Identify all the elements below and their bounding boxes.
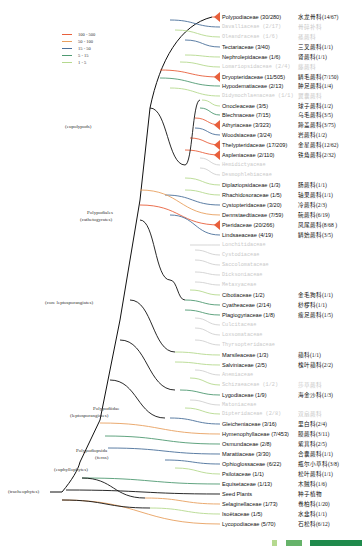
taxon-chinese-name: 紫萁科(2/5): [298, 439, 327, 449]
branch: [120, 340, 175, 390]
branch: [185, 100, 200, 165]
taxon-row: Selaginellaceae (1/73)卷柏科(1/20): [222, 499, 278, 509]
taxon-chinese-name: 合囊蕨科(1/1): [298, 449, 333, 459]
legend-swatch: [62, 41, 72, 43]
taxon-name: Cystodiaceae: [222, 252, 259, 258]
taxon-row: Desmophlebiaceae: [222, 170, 272, 180]
branch: [195, 340, 220, 345]
taxon-chinese-name: 槐叶蘋科(2/2): [298, 360, 333, 370]
taxon-chinese-name: 石松科(6/12): [298, 519, 330, 529]
taxon-chinese-name: 卷柏科(1/20): [298, 499, 330, 509]
branch: [185, 190, 220, 195]
taxon-chinese-name: 岩蕨科(1/2): [298, 130, 327, 140]
branch: [145, 498, 220, 504]
taxon-name: Onocleaceae (3/5): [222, 103, 268, 109]
taxon-row: Cystodiaceae: [222, 250, 259, 260]
branch: [195, 318, 220, 325]
taxon-row: Pteridaceae (20/266)凤尾蕨科(8/68 ): [222, 220, 274, 230]
legend-label: 5 - 15: [78, 53, 89, 58]
taxon-chinese-name: 铁角蕨科(2/32): [298, 150, 336, 160]
taxon-chinese-name: 鳞始蕨科(3/5): [298, 230, 333, 240]
taxon-name: Saccolomataceae: [222, 262, 269, 268]
branch: [195, 370, 220, 375]
taxon-name: Lindsaeaceae (4/19): [222, 232, 273, 238]
taxon-name: Cystopteridaceae (3/20): [222, 202, 282, 208]
collapsed-clade-wedge: [214, 150, 220, 160]
branch: [185, 40, 220, 47]
legend-item: 50 - 100: [62, 38, 95, 45]
legend-label: 100 - 500: [78, 32, 95, 37]
taxon-chinese-name: 骨碎补科: [298, 22, 322, 32]
clade-label: (euphyllophytes): [54, 467, 88, 474]
taxon-name: Desmophlebiaceae: [222, 172, 272, 178]
taxon-row: Cystopteridaceae (3/20)冷蕨科(2/3): [222, 200, 282, 210]
branch: [82, 478, 145, 498]
taxon-chinese-name: 三叉蕨科(1/1): [298, 42, 333, 52]
taxon-name: Plagiogyriaceae (1/8): [222, 312, 275, 318]
branch: [195, 260, 220, 265]
taxon-name: Ophioglossaceae (6/22): [222, 461, 281, 467]
taxon-row: Ophioglossaceae (6/22)瓶尔小草科(3/8): [222, 459, 281, 469]
taxon-chinese-name: 海金沙科(1/3): [298, 390, 333, 400]
taxon-name: Marsileaceae (1/3): [222, 352, 268, 358]
taxon-chinese-name: 凤尾蕨科(8/68 ): [298, 220, 337, 230]
branch: [195, 272, 220, 275]
taxon-chinese-name: 乌毛蕨科(3/5): [298, 110, 333, 120]
taxon-name: Woodsiaceae (3/24): [222, 132, 272, 138]
taxon-row: Nephrolepidaceae (1/6)肾蕨科(1/1): [222, 52, 280, 62]
taxon-row: Lygodiaceae (1/9)海金沙科(1/3): [222, 390, 267, 400]
branch: [170, 20, 220, 27]
taxon-row: Thyrsopteridaceae: [222, 340, 275, 350]
taxon-name: Hypodematiaceae (2/13): [222, 83, 283, 89]
branch: [66, 490, 220, 494]
branch: [170, 88, 220, 96]
branch: [195, 128, 220, 135]
taxon-row: Lonchitidaceae: [222, 240, 266, 250]
taxon-chinese-name: 碗蕨科(6/19): [298, 210, 330, 220]
taxon-row: Dipteridaceae (2/8)双扇蕨科: [222, 409, 281, 419]
taxon-name: Athyriaceae (3/323): [222, 122, 271, 128]
branch: [190, 378, 220, 385]
taxon-row: Diplaziopsidaceae (1/3)肠蕨科(1/1): [222, 180, 280, 190]
taxon-chinese-name: 水龙骨科(14/67): [298, 12, 338, 22]
taxon-name: Gleicheniaceae (3/16): [222, 421, 277, 427]
clade-label: (leptosporangiates): [70, 413, 108, 420]
branch: [195, 282, 220, 285]
taxon-chinese-name: 蹄盖蕨科(3/75): [298, 120, 336, 130]
legend: 100 - 50050 - 10015 - 505 - 151 - 5: [62, 31, 95, 66]
branch: [170, 418, 220, 424]
clade-label: (tracheophytes): [8, 489, 39, 496]
taxon-name: Aspleniaceae (2/110): [222, 152, 274, 158]
legend-label: 50 - 100: [78, 39, 93, 44]
taxon-row: Equisetaceae (1/13)木贼科(1/6): [222, 479, 272, 489]
taxon-name: Diplaziopsidaceae (1/3): [222, 182, 280, 188]
collapsed-clade-wedge: [214, 12, 220, 22]
branch: [130, 300, 175, 352]
collapsed-clade-wedge: [214, 220, 220, 230]
branch: [185, 408, 220, 414]
taxon-chinese-name: 膜蕨科(3/11): [298, 429, 329, 439]
taxon-row: Thelypteridaceae (17/209)金星蕨科(12/62): [222, 140, 287, 150]
taxon-name: Lycopodiaceae (5/70): [222, 521, 276, 527]
taxon-row: Saccolomataceae: [222, 260, 269, 270]
clade-label: Polypodiales: [87, 210, 113, 217]
taxon-chinese-name: 肿足蕨科(1/4): [298, 81, 333, 91]
branch: [150, 508, 220, 514]
taxon-chinese-name: 金毛狗科(1/1): [298, 290, 333, 300]
taxon-chinese-name: 翼囊蕨科: [298, 91, 322, 101]
branch: [175, 362, 220, 365]
taxon-name: Lonchitidaceae: [222, 242, 266, 248]
clade-label: (ferns): [95, 455, 108, 462]
taxon-name: Pteridaceae (20/266): [222, 222, 274, 228]
taxon-name: Culcitaceae: [222, 322, 256, 328]
taxon-row: Loxsomataceae: [222, 330, 262, 340]
clade-label: (cathetogyrates): [80, 217, 112, 224]
branch: [108, 448, 220, 454]
taxon-name: Dicksoniaceae: [222, 272, 262, 278]
branch: [175, 468, 220, 474]
branch: [200, 158, 220, 165]
taxon-name: Lygodiaceae (1/9): [222, 392, 267, 398]
taxon-row: Isoëtaceae (1/5)水韭科(1/1): [222, 509, 262, 519]
branch: [100, 423, 220, 434]
taxon-name: Hemidictyaceae: [222, 162, 266, 168]
